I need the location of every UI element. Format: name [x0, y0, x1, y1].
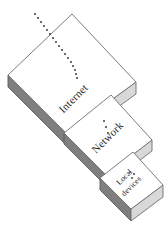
diagram-figure: Internet Network Local devices	[0, 0, 165, 243]
network-layers-diagram: Internet Network Local devices	[0, 0, 165, 243]
